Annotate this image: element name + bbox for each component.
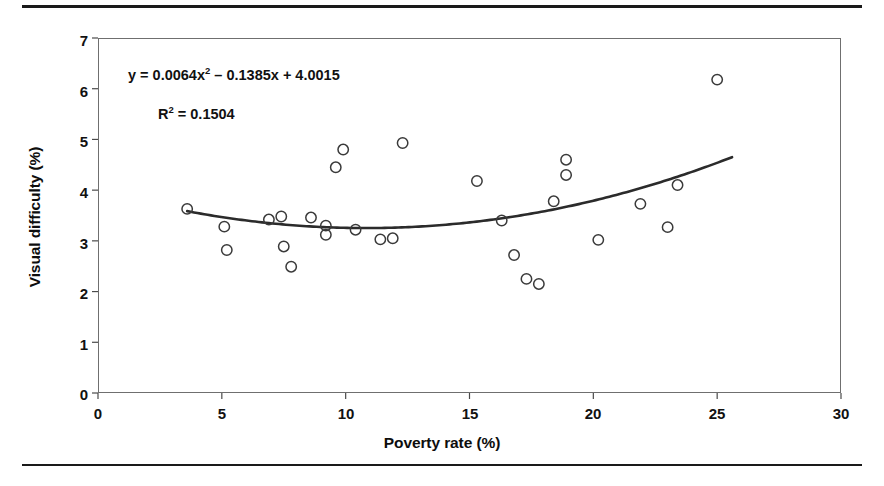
x-tick-label-25: 25 (697, 406, 737, 421)
y-tick-label-6: 6 (62, 84, 88, 99)
equation-suffix: – 0.1385x + 4.0015 (210, 67, 339, 83)
page-rule-top (22, 5, 862, 8)
regression-equation: y = 0.0064x2 – 0.1385x + 4.0015 (128, 68, 340, 83)
equation-prefix: y = 0.0064x (128, 67, 205, 83)
scatter-plot-figure: 7 6 5 4 3 2 1 0 0 5 10 15 20 25 30 Pover… (0, 0, 884, 486)
r-squared-suffix: = 0.1504 (174, 106, 235, 122)
y-tick-label-2: 2 (62, 286, 88, 301)
x-tick-label-5: 5 (202, 406, 242, 421)
x-tick-label-10: 10 (326, 406, 366, 421)
y-tick-label-4: 4 (62, 185, 88, 200)
x-tick-label-20: 20 (573, 406, 613, 421)
y-tick-label-0: 0 (62, 387, 88, 402)
y-tick-label-3: 3 (62, 236, 88, 251)
r-squared-value: R2 = 0.1504 (158, 107, 340, 122)
y-tick-label-7: 7 (62, 33, 88, 48)
trendline-annotation: y = 0.0064x2 – 0.1385x + 4.0015 R2 = 0.1… (128, 68, 340, 121)
x-axis-title: Poverty rate (%) (0, 434, 884, 452)
x-tick-label-15: 15 (450, 406, 490, 421)
x-tick-label-0: 0 (78, 406, 118, 421)
x-tick-label-30: 30 (821, 406, 861, 421)
y-tick-label-5: 5 (62, 134, 88, 149)
y-axis-title: Visual difficulty (%) (26, 87, 44, 347)
r-squared-prefix: R (158, 106, 168, 122)
page-rule-bottom (22, 464, 862, 466)
y-tick-label-1: 1 (62, 337, 88, 352)
